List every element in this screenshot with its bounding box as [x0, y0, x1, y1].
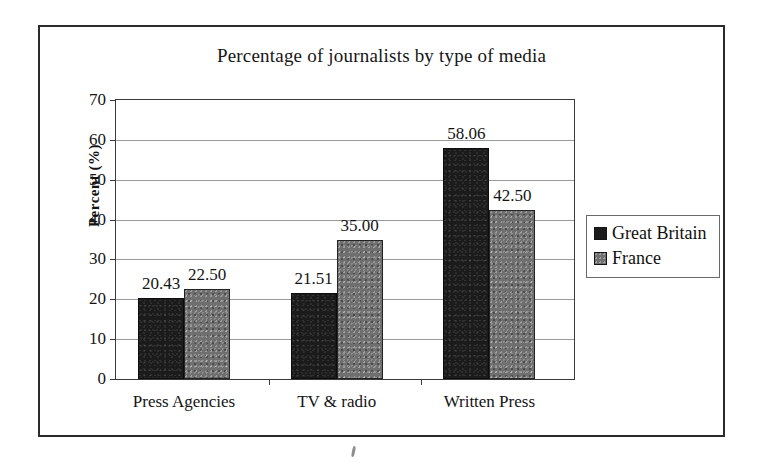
y-tick-label: 40	[89, 210, 106, 230]
bar-value-label: 35.00	[341, 216, 379, 236]
bar-value-label: 20.43	[142, 274, 180, 294]
x-tick-mark	[269, 379, 270, 385]
scan-artifact-mark	[351, 446, 356, 457]
bar-value-label: 22.50	[188, 265, 226, 285]
bar-france	[489, 210, 535, 379]
figure-frame: Percentage of journalists by type of med…	[38, 25, 725, 437]
y-tick-mark	[110, 140, 116, 141]
gray-square-icon	[594, 252, 607, 265]
y-tick-label: 70	[89, 90, 106, 110]
bar-france	[337, 240, 383, 380]
legend-item-france[interactable]: France	[594, 246, 711, 271]
y-tick-mark	[110, 339, 116, 340]
y-tick-mark	[110, 379, 116, 380]
legend-label-france: France	[612, 248, 661, 269]
gridline	[116, 140, 574, 141]
y-tick-mark	[110, 180, 116, 181]
x-category-label: Written Press	[444, 392, 535, 412]
x-category-label: Press Agencies	[133, 392, 235, 412]
black-square-icon	[594, 227, 607, 240]
bar-france	[184, 289, 230, 379]
bar-value-label: 21.51	[295, 269, 333, 289]
legend-label-great-britain: Great Britain	[612, 223, 706, 244]
x-category-label: TV & radio	[297, 392, 376, 412]
bar-great-britain	[291, 293, 337, 379]
bar-value-label: 58.06	[447, 124, 485, 144]
y-tick-label: 50	[89, 170, 106, 190]
y-tick-mark	[110, 220, 116, 221]
y-tick-label: 10	[89, 329, 106, 349]
y-tick-mark	[110, 259, 116, 260]
y-tick-mark	[110, 299, 116, 300]
plot-area: 70605040302010020.4322.50Press Agencies2…	[115, 99, 575, 380]
y-tick-label: 30	[89, 249, 106, 269]
x-tick-mark	[421, 379, 422, 385]
y-tick-label: 20	[89, 289, 106, 309]
bar-great-britain	[443, 148, 489, 379]
bar-value-label: 42.50	[493, 186, 531, 206]
y-tick-label: 60	[89, 130, 106, 150]
legend-item-great-britain[interactable]: Great Britain	[594, 221, 711, 246]
bar-great-britain	[138, 298, 184, 379]
chart-title: Percentage of journalists by type of med…	[40, 45, 723, 67]
gridline	[116, 180, 574, 181]
y-tick-label: 0	[98, 369, 107, 389]
y-tick-mark	[110, 100, 116, 101]
chart-legend: Great Britain France	[586, 215, 720, 278]
